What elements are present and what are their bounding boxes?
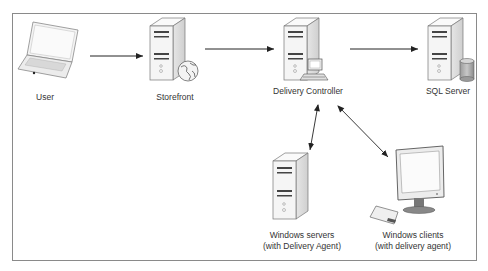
server-computer-icon xyxy=(284,18,328,80)
edge-controller-windows-servers xyxy=(310,105,318,150)
server-database-icon xyxy=(428,18,474,82)
node-label-sql-server: SQL Server xyxy=(420,86,476,97)
windows-clients-line2: (with delivery agent) xyxy=(363,241,463,252)
node-label-storefront: Storefront xyxy=(150,92,200,103)
server-icon xyxy=(273,153,308,219)
windows-servers-line1: Windows servers xyxy=(252,230,352,241)
server-globe-icon xyxy=(150,18,198,81)
windows-servers-line2: (with Delivery Agent) xyxy=(252,241,352,252)
laptop-icon xyxy=(18,22,78,78)
desktop-computer-icon xyxy=(370,146,444,224)
windows-clients-line1: Windows clients xyxy=(363,230,463,241)
node-label-windows-servers: Windows servers (with Delivery Agent) xyxy=(252,230,352,252)
node-label-windows-clients: Windows clients (with delivery agent) xyxy=(363,230,463,252)
edge-controller-windows-clients xyxy=(338,106,388,157)
node-label-delivery-controller: Delivery Controller xyxy=(268,86,348,97)
node-label-user: User xyxy=(30,92,60,103)
